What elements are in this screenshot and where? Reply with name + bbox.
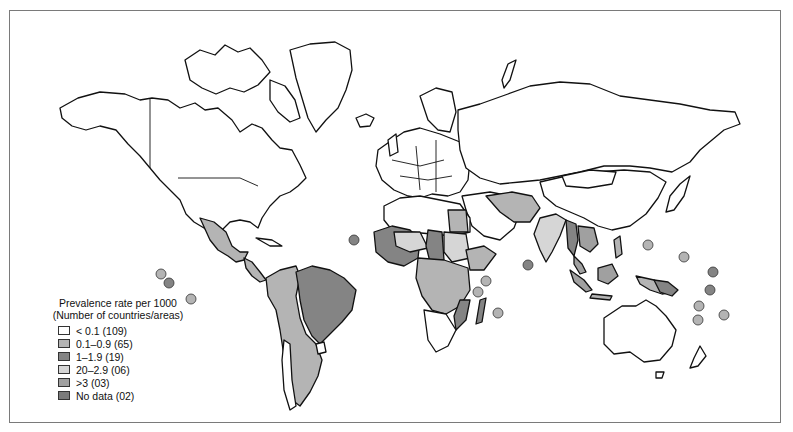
legend-item: 20–2.9 (06)	[58, 363, 198, 376]
island-marker	[708, 267, 718, 277]
island-marker	[493, 308, 503, 318]
legend-item: 1–1.9 (19)	[58, 350, 198, 363]
region-iceland	[356, 114, 374, 127]
region-tasmania	[656, 372, 664, 378]
island-marker	[481, 276, 491, 286]
island-marker	[643, 240, 653, 250]
legend-label: 0.1–0.9 (65)	[76, 338, 133, 350]
region-scandinavia	[420, 88, 456, 132]
region-egypt	[448, 210, 468, 232]
legend-label: < 0.1 (109)	[76, 325, 127, 337]
region-uk	[388, 134, 398, 156]
region-horn-africa	[466, 246, 496, 270]
map-legend: Prevalence rate per 1000 (Number of coun…	[38, 297, 198, 402]
island-marker	[693, 315, 703, 325]
region-malaysia	[574, 256, 586, 274]
region-philippines	[614, 236, 622, 258]
legend-item: < 0.1 (109)	[58, 324, 198, 337]
legend-label: 1–1.9 (19)	[76, 351, 124, 363]
island-marker	[719, 310, 729, 320]
region-baffin-island	[270, 80, 300, 122]
island-marker	[473, 287, 483, 297]
region-borneo	[598, 264, 618, 284]
legend-swatch	[58, 339, 70, 348]
region-central-america	[244, 258, 266, 282]
legend-item: No data (02)	[58, 389, 198, 402]
island-marker	[523, 260, 533, 270]
legend-swatch	[58, 391, 70, 400]
legend-swatch	[58, 352, 70, 361]
region-java	[590, 294, 612, 300]
region-indochina	[578, 226, 598, 252]
region-sudan	[444, 232, 470, 262]
legend-item: >3 (03)	[58, 376, 198, 389]
island-marker	[679, 252, 689, 262]
region-new-zealand	[690, 346, 706, 368]
region-russia	[458, 82, 740, 184]
legend-subtitle: (Number of countries/areas)	[38, 309, 198, 321]
region-novaya-zemlya	[502, 60, 516, 88]
legend-item: 0.1–0.9 (65)	[58, 337, 198, 350]
legend-swatch	[58, 326, 70, 335]
region-india	[534, 214, 566, 262]
island-marker	[694, 301, 704, 311]
region-myanmar	[566, 220, 578, 256]
region-japan	[666, 176, 690, 212]
region-north-america	[60, 92, 306, 234]
region-cuba	[256, 238, 282, 246]
region-png	[654, 280, 678, 296]
legend-title: Prevalence rate per 1000	[38, 297, 198, 309]
legend-label: >3 (03)	[76, 377, 110, 389]
region-australia	[604, 300, 676, 362]
legend-label: No data (02)	[76, 390, 134, 402]
island-marker	[164, 278, 174, 288]
region-southern-africa	[424, 310, 456, 352]
legend-items: < 0.1 (109) 0.1–0.9 (65) 1–1.9 (19) 20–2…	[58, 324, 198, 402]
region-madagascar	[476, 298, 486, 324]
island-marker	[156, 269, 166, 279]
region-uruguay	[316, 342, 326, 354]
legend-swatch	[58, 378, 70, 387]
island-marker	[349, 235, 359, 245]
island-marker	[705, 285, 715, 295]
region-chad	[426, 230, 444, 262]
region-arctic-islands	[185, 45, 270, 94]
legend-label: 20–2.9 (06)	[76, 364, 130, 376]
legend-swatch	[58, 365, 70, 374]
